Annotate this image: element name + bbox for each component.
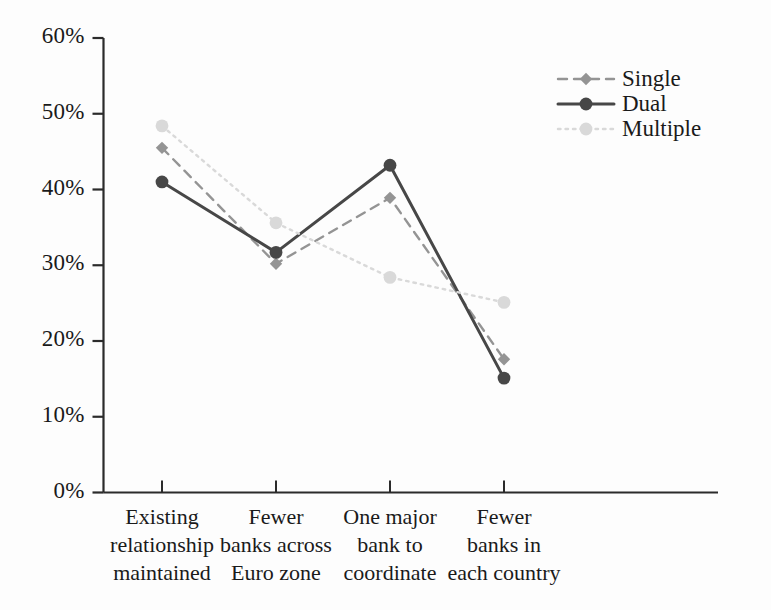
line-chart: 0%10%20%30%40%50%60% Existingrelationshi… [0,0,771,610]
data-point-dual [156,176,169,189]
y-axis-tick-label: 0% [0,478,85,504]
series-line-dual [162,165,504,378]
legend-item-dual: Dual [556,91,768,116]
legend-label-single: Single [616,67,681,90]
x-axis-tick-label: Fewerbanks ineach country [414,503,594,587]
data-point-dual [270,246,283,259]
y-axis-tick-label: 10% [0,402,85,428]
series-line-single [162,148,504,359]
y-axis-tick-label: 40% [0,175,85,201]
data-point-multiple [270,216,283,229]
data-point-single [270,258,282,270]
data-point-multiple [384,271,397,284]
y-axis-tick-label: 60% [0,23,85,49]
data-point-dual [384,159,397,172]
chart-legend: Single Dual Multiple [556,66,768,141]
x-axis-tick-label-line: banks in [414,531,594,559]
legend-swatch-multiple [556,118,616,140]
data-point-multiple [156,119,169,132]
y-axis-tick-label: 30% [0,250,85,276]
y-axis-tick-label: 20% [0,326,85,352]
x-axis-tick-label-line: Fewer [414,503,594,531]
x-axis-tick-label-line: each country [414,559,594,587]
legend-label-multiple: Multiple [616,117,701,140]
legend-item-single: Single [556,66,768,91]
legend-swatch-single [556,68,616,90]
data-point-multiple [498,296,511,309]
data-point-single [384,192,396,204]
legend-label-dual: Dual [616,92,667,115]
data-point-dual [498,372,511,385]
legend-swatch-dual [556,93,616,115]
legend-item-multiple: Multiple [556,116,768,141]
y-axis-tick-label: 50% [0,99,85,125]
